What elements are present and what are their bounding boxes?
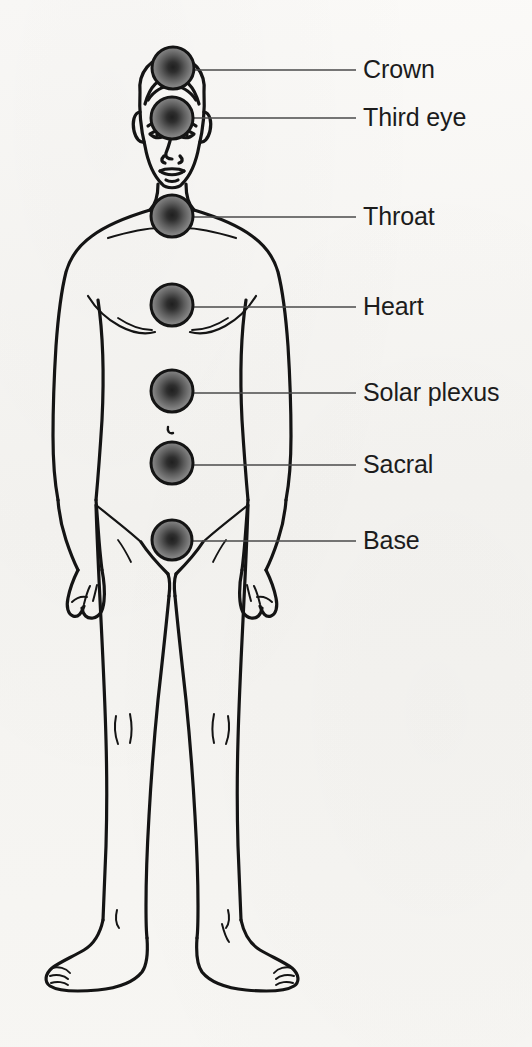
chakra-point-crown[interactable] xyxy=(152,47,194,89)
chakra-label-solar-plexus: Solar plexus xyxy=(363,380,499,405)
chakra-label-crown: Crown xyxy=(363,57,435,82)
leader-lines-group xyxy=(192,70,356,541)
chakra-dot-throat xyxy=(151,195,193,237)
chakra-point-throat[interactable] xyxy=(151,195,193,237)
chakra-point-sacral[interactable] xyxy=(151,442,193,484)
chakra-point-heart[interactable] xyxy=(151,284,193,326)
chakra-diagram-page: CrownThird eyeThroatHeartSolar plexusSac… xyxy=(0,0,532,1047)
body-figure-illustration xyxy=(0,0,532,1047)
chakra-label-heart: Heart xyxy=(363,294,424,319)
chakra-dot-third-eye xyxy=(151,97,193,139)
chakra-dot-crown xyxy=(152,47,194,89)
chakra-label-base: Base xyxy=(363,528,420,553)
chakra-dot-solar-plexus xyxy=(151,370,193,412)
chakra-dot-base xyxy=(152,520,192,560)
chakra-points-group xyxy=(151,47,194,560)
chakra-label-third-eye: Third eye xyxy=(363,105,466,130)
chakra-dot-sacral xyxy=(151,442,193,484)
chakra-point-base[interactable] xyxy=(152,520,192,560)
chakra-dot-heart xyxy=(151,284,193,326)
chakra-point-third-eye[interactable] xyxy=(151,97,193,139)
chakra-point-solar-plexus[interactable] xyxy=(151,370,193,412)
chakra-label-throat: Throat xyxy=(363,204,435,229)
chakra-label-sacral: Sacral xyxy=(363,452,433,477)
